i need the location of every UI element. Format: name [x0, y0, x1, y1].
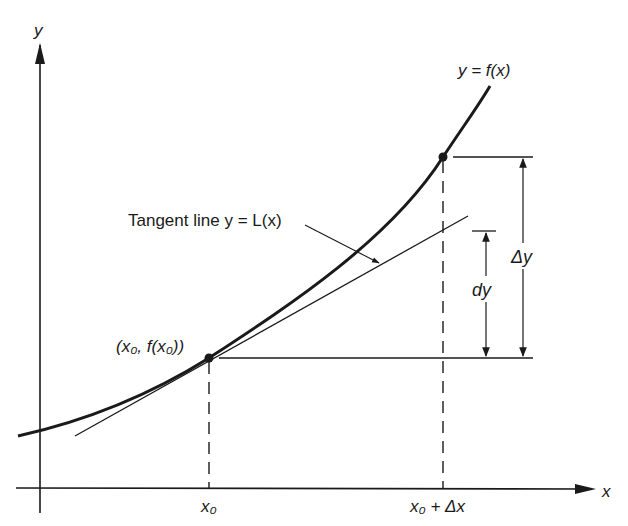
delta-y-measure: Δy [510, 159, 540, 356]
y-axis: y [33, 21, 45, 513]
dy-measure: dy [470, 233, 502, 356]
x-axis-label: x [601, 482, 611, 501]
y-axis-label: y [33, 21, 44, 40]
base-point [205, 354, 214, 363]
curve-f [18, 86, 490, 436]
tangent-label: Tangent line y = L(x) [128, 211, 282, 230]
curve-label: y = f(x) [457, 61, 510, 80]
x-axis: x [16, 482, 611, 501]
y-axis-arrow-icon [35, 43, 45, 64]
tangent-line-diagram: y x y = f(x) Tangent line y = L(x) (x₀, … [0, 0, 628, 526]
x0-dx-tick-label: x₀ + Δx [409, 497, 465, 516]
dy-label: dy [472, 280, 492, 300]
x-axis-arrow-icon [575, 484, 596, 494]
delta-y-label: Δy [510, 247, 533, 267]
increment-point [439, 153, 448, 162]
tangent-line [75, 216, 468, 436]
base-point-label: (x₀, f(x₀)) [116, 337, 184, 356]
x0-tick-label: x₀ [200, 497, 217, 516]
